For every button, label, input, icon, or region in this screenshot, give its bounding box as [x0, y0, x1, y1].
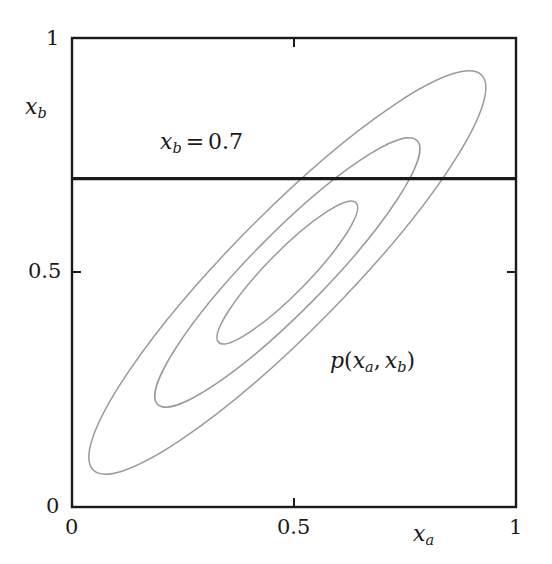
y-axis-label-base: x: [25, 94, 37, 119]
density-label-arg1-base: x: [353, 348, 365, 373]
tick-marks: [72, 38, 516, 507]
density-label: p(xa,xb): [330, 350, 415, 375]
conditioning-label-operator: =: [182, 129, 208, 154]
outer-contour: [52, 34, 523, 510]
density-label-close-paren: ): [406, 348, 415, 373]
conditioning-label-sub: b: [172, 140, 181, 156]
contour-plot-figure: 1 0.5 0 0 0.5 1 xb xa xb=0.7 p(xa,xb): [0, 0, 552, 564]
x-axis-label-sub: a: [425, 532, 434, 548]
conditioning-label-value: 0.7: [208, 129, 243, 154]
x-tick-label-1: 1: [509, 517, 522, 538]
x-tick-label-0.5: 0.5: [277, 517, 310, 538]
inner-contour: [204, 188, 371, 357]
density-label-arg2-base: x: [385, 348, 397, 373]
y-tick-label-1: 1: [46, 28, 59, 49]
density-label-open-paren: (: [344, 348, 353, 373]
density-label-arg1-sub: a: [365, 359, 374, 375]
x-axis-label-base: x: [413, 521, 425, 546]
plot-canvas: [0, 0, 552, 564]
y-tick-label-0: 0: [46, 496, 59, 517]
conditioning-label: xb=0.7: [160, 131, 243, 156]
plot-frame: [72, 38, 516, 507]
axes-box: [72, 38, 516, 507]
contour-group: [52, 34, 523, 510]
density-label-fn: p: [330, 348, 344, 373]
x-tick-label-0: 0: [65, 517, 78, 538]
density-label-comma: ,: [374, 348, 385, 373]
middle-contour: [131, 114, 445, 431]
y-tick-label-0.5: 0.5: [28, 261, 61, 282]
x-axis-label: xa: [413, 523, 434, 548]
y-axis-label-sub: b: [37, 105, 46, 121]
conditioning-label-base: x: [160, 129, 172, 154]
y-axis-label: xb: [25, 96, 47, 121]
